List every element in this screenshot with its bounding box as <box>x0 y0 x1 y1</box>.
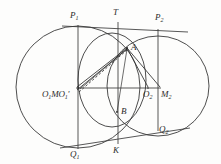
label-text-a: A <box>131 42 137 52</box>
point-label-q1: Q1 <box>70 150 80 159</box>
label-text-b: B <box>121 106 127 116</box>
label-sub-p1: 1 <box>76 15 79 21</box>
label-sub-o2: 2 <box>150 94 153 100</box>
geometry-figure: P1 T P2 A B O1MO1' O2 M2 Q1 K Q2 <box>0 0 221 164</box>
label-text-k: K <box>113 145 119 155</box>
label-text-o2: O <box>143 89 150 99</box>
label-sub-m2: 2 <box>169 94 172 100</box>
point-label-t: T <box>113 8 118 17</box>
point-dot-b <box>116 111 118 113</box>
bottom-tangent-line <box>60 128 190 148</box>
geometry-canvas <box>0 0 221 164</box>
label-text-q1: Q <box>70 149 77 159</box>
label-sub-q2: 2 <box>166 129 169 135</box>
label-text-p2: P <box>155 12 161 22</box>
point-dot-a <box>126 47 128 49</box>
segment-a-to-b-helper <box>117 49 127 112</box>
segment-a-to-q1-helper <box>80 49 127 89</box>
point-label-a: A <box>131 43 137 52</box>
point-label-p1: P1 <box>70 11 79 20</box>
label-text-t: T <box>113 7 118 17</box>
top-tangent-line <box>62 26 188 32</box>
label-text-q2: Q <box>159 124 166 134</box>
segment-o1-to-a <box>77 48 127 87</box>
segment-a-to-m2 <box>127 48 160 87</box>
point-label-k: K <box>113 146 119 155</box>
point-label-q2: Q2 <box>159 125 169 134</box>
segment-o1prime-to-a-dashed <box>79 50 127 92</box>
label-text-o1-prime: O <box>58 89 64 99</box>
center-label-cluster-left: O1MO1' <box>42 90 69 99</box>
point-label-p2: P2 <box>155 13 164 22</box>
center-label-o2: O2 <box>143 90 153 99</box>
label-text-m2: M <box>161 89 169 99</box>
label-sub-o1-prime: 1 <box>65 94 68 100</box>
label-sub-q1: 1 <box>77 154 80 160</box>
label-sub-p2: 2 <box>161 17 164 23</box>
center-label-m2: M2 <box>161 90 172 99</box>
point-dot-o1 <box>77 87 79 89</box>
point-label-b: B <box>121 107 127 116</box>
label-sub-o1: 1 <box>48 94 51 100</box>
label-text-p1: P <box>70 10 76 20</box>
